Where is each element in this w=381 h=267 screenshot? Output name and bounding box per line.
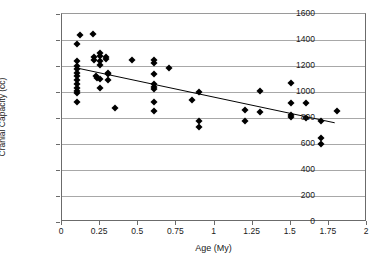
x-axis-tick-label: 0.75 — [167, 227, 184, 236]
x-axis-tick-label: 1.5 — [284, 227, 296, 236]
x-axis-tick — [328, 221, 329, 225]
x-axis: 00.250.50.7511.251.51.752 — [61, 221, 366, 235]
x-axis-tick — [175, 221, 176, 225]
y-axis-tick-label: 400 — [301, 165, 315, 174]
y-axis-tick — [56, 40, 60, 41]
y-axis-title-container: Cranial Capacity (cc) — [10, 13, 24, 221]
y-axis-tick — [56, 170, 60, 171]
x-axis-tick-label: 0 — [59, 227, 64, 236]
y-axis-tick — [56, 222, 60, 223]
y-axis-tick-label: 800 — [301, 113, 315, 122]
x-axis-tick — [290, 221, 291, 225]
scatter-chart: Cranial Capacity (cc) 00.250.50.7511.251… — [0, 0, 381, 267]
x-axis-tick-label: 1.75 — [320, 227, 337, 236]
y-axis-tick — [56, 118, 60, 119]
y-axis-tick-label: 1400 — [296, 35, 315, 44]
x-axis-tick-label: 0.25 — [91, 227, 108, 236]
x-axis-tick — [99, 221, 100, 225]
y-axis-tick — [56, 14, 60, 15]
y-axis-tick-label: 200 — [301, 191, 315, 200]
y-axis-tick-label: 1600 — [296, 9, 315, 18]
x-axis-tick-label: 1.25 — [243, 227, 260, 236]
y-axis-tick — [56, 66, 60, 67]
x-axis-tick-label: 0.5 — [131, 227, 143, 236]
x-axis-tick — [137, 221, 138, 225]
x-axis-tick — [252, 221, 253, 225]
y-axis-tick — [56, 196, 60, 197]
plot-area — [61, 13, 366, 221]
y-axis-title: Cranial Capacity (cc) — [0, 78, 7, 157]
y-axis-tick-label: 1200 — [296, 61, 315, 70]
x-axis-tick — [61, 221, 62, 225]
x-axis-title: Age (My) — [61, 243, 366, 253]
y-axis-tick — [56, 92, 60, 93]
y-axis-tick-label: 0 — [310, 217, 315, 226]
x-axis-tick — [366, 221, 367, 225]
y-axis-tick — [56, 144, 60, 145]
y-axis-tick-label: 1000 — [296, 87, 315, 96]
x-axis-tick — [214, 221, 215, 225]
y-axis-tick-label: 600 — [301, 139, 315, 148]
x-axis-tick-label: 2 — [364, 227, 369, 236]
x-axis-tick-label: 1 — [211, 227, 216, 236]
